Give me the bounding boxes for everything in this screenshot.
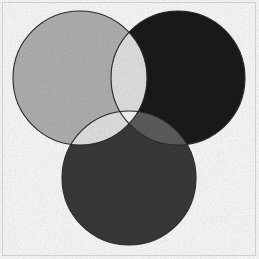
venn-diagram-canvas xyxy=(0,0,259,259)
venn-figure xyxy=(0,0,259,259)
